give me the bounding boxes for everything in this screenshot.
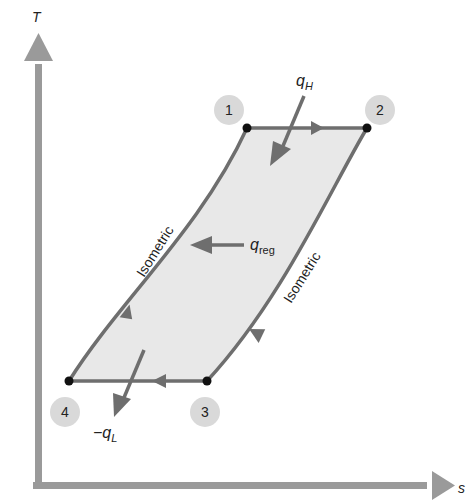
svg-text:3: 3 <box>201 404 209 420</box>
state-badge-4: 4 <box>50 397 80 427</box>
svg-text:4: 4 <box>61 404 69 420</box>
state-badge-2: 2 <box>365 95 395 125</box>
state-point-2 <box>363 124 372 133</box>
ts-diagram: T s qH qreg −qL Isometric Isometric <box>0 0 466 500</box>
s-axis-arrow-icon <box>432 471 455 500</box>
cycle-region <box>69 128 367 381</box>
t-axis <box>24 33 53 488</box>
state-badge-1: 1 <box>214 95 244 125</box>
t-axis-arrow-icon <box>24 33 53 61</box>
q-low-label: −qL <box>93 424 117 444</box>
q-high-label: qH <box>296 72 313 92</box>
svg-text:2: 2 <box>376 102 384 118</box>
q-low-arrow-icon <box>113 393 131 417</box>
s-axis-label: s <box>458 480 465 496</box>
direction-arrow-2-3-icon <box>249 327 266 344</box>
state-point-1 <box>243 124 252 133</box>
s-axis <box>33 471 455 500</box>
state-point-4 <box>65 377 74 386</box>
state-badge-3: 3 <box>190 397 220 427</box>
t-axis-label: T <box>32 9 42 25</box>
svg-text:1: 1 <box>225 102 233 118</box>
state-point-3 <box>203 377 212 386</box>
